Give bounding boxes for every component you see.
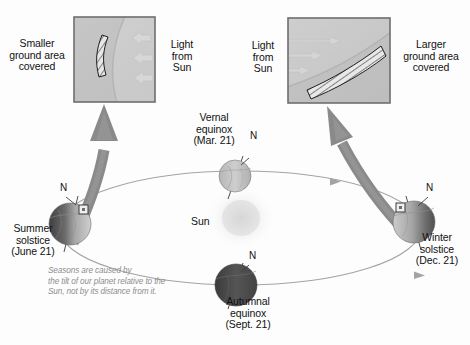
- larger-ground-area-panel: [282, 14, 396, 110]
- orbit-direction-marker: [414, 272, 425, 280]
- seasons-caption: Seasons are caused by the tilt of our pl…: [48, 266, 228, 298]
- pole-label-summer: N: [60, 182, 67, 193]
- label-summer-solstice: Summer solstice (June 21): [0, 223, 66, 258]
- inset-left-light-label: Light from Sun: [158, 39, 206, 74]
- pole-label-vernal: N: [250, 130, 257, 141]
- label-winter-solstice: Winter solstice (Dec. 21): [404, 232, 470, 267]
- label-sun: Sun: [191, 215, 210, 227]
- pole-label-autumnal: N: [249, 250, 256, 261]
- inset-right-area-label: Larger ground area covered: [394, 39, 468, 74]
- sun-glow: [205, 185, 277, 251]
- label-vernal-equinox: Vernal equinox (Mar. 21): [178, 112, 250, 147]
- smaller-ground-area-panel: [74, 10, 160, 106]
- inset-left-area-label: Smaller ground area covered: [2, 38, 72, 73]
- pole-label-winter: N: [426, 182, 433, 193]
- inset-right-light-label: Light from Sun: [240, 40, 286, 75]
- label-autumnal-equinox: Autumnal equinox (Sept. 21): [205, 296, 291, 331]
- seasons-diagram: Smaller ground area covered Light from S…: [0, 0, 470, 345]
